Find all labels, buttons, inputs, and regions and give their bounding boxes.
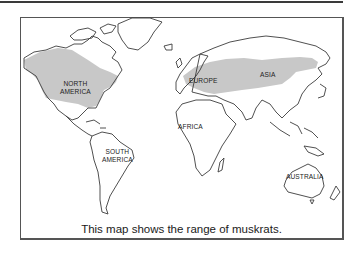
outline-australia: [284, 164, 324, 198]
label-north-america-line2: AMERICA: [60, 88, 91, 96]
label-south-america: SOUTH AMERICA: [102, 148, 133, 164]
outline-caribbean: [86, 120, 106, 128]
map-caption: This map shows the range of muskrats.: [0, 223, 363, 235]
outline-greenland: [118, 18, 162, 50]
continent-outlines: [24, 18, 340, 214]
outline-africa: [176, 100, 236, 176]
range-north-america: [24, 48, 118, 108]
outline-iceland: [164, 44, 172, 50]
outline-madagascar: [218, 158, 224, 172]
outline-britain: [176, 58, 182, 68]
label-south-america-line1: SOUTH: [102, 148, 133, 156]
outline-new-zealand: [330, 186, 340, 200]
label-asia: ASIA: [260, 71, 275, 79]
label-north-america: NORTH AMERICA: [60, 80, 91, 96]
outline-japan: [318, 84, 326, 98]
label-africa: AFRICA: [178, 123, 203, 131]
outline-arctic-islands: [70, 24, 116, 40]
outline-new-guinea: [304, 146, 324, 156]
outline-southeast-asia-islands: [270, 122, 318, 138]
outline-south-america: [90, 132, 134, 214]
outline-tasmania: [310, 200, 314, 204]
label-south-america-line2: AMERICA: [102, 156, 133, 164]
label-europe: EUROPE: [189, 77, 217, 85]
label-australia: AUSTRALIA: [286, 173, 324, 181]
label-north-america-line1: NORTH: [60, 80, 91, 88]
